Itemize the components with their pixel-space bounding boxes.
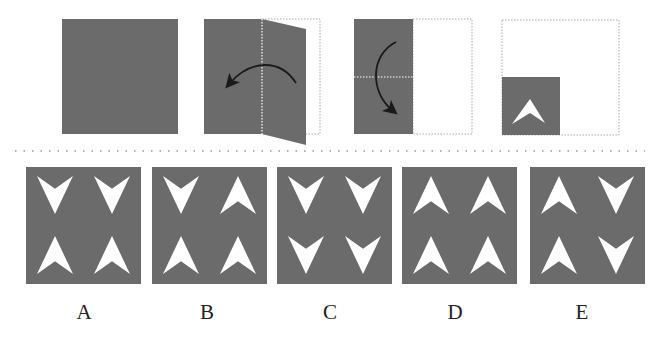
step-2-vertical-fold [204,19,320,145]
step-3-horizontal-fold [354,19,472,134]
option-panel-e[interactable] [530,167,645,284]
left-half [354,19,413,134]
option-panel-a[interactable] [26,167,141,284]
step-1-square [62,19,178,134]
option-label-c[interactable]: C [315,300,345,325]
option-panel-b[interactable] [152,167,267,284]
folding-flap [262,19,306,145]
options-layer [26,167,645,284]
option-label-b[interactable]: B [192,300,222,325]
left-half [204,19,262,134]
outline-right-half [413,19,472,134]
option-label-d[interactable]: D [440,300,470,325]
option-panel-d[interactable] [402,167,517,284]
option-label-e[interactable]: E [567,300,597,325]
option-panel-c[interactable] [277,167,392,284]
diagram-canvas [0,0,661,342]
step-4-cut [502,20,619,135]
option-label-a[interactable]: A [69,300,99,325]
